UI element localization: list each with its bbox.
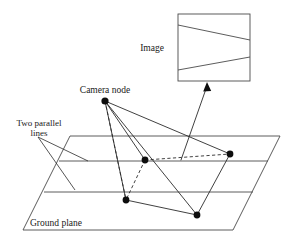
leader-line-parallel-lower (38, 137, 75, 190)
ground-point-low-left-dot (123, 197, 130, 204)
label-camera-node: Camera node (80, 85, 130, 95)
diagram-canvas: Image Camera node Two parallel lines Gro… (0, 0, 292, 243)
ground-point-mid-right-dot (227, 151, 234, 158)
label-two-parallel-lines-line1: Two parallel (16, 118, 62, 128)
image-plane-rect (178, 14, 250, 81)
ground-point-mid-left-dot (142, 157, 149, 164)
label-two-parallel-lines-line2: lines (31, 128, 48, 138)
edge-low-right-to-mid-right (197, 154, 230, 215)
leader-line-parallel-upper (38, 137, 88, 161)
ray-to-low-right (105, 101, 197, 215)
ground-point-low-right-dot (194, 212, 201, 219)
dashed-mid-left-to-low-left (126, 160, 145, 200)
ground-plane-polygon (23, 136, 280, 230)
label-image: Image (140, 43, 164, 53)
dashed-mid-left-to-mid-right (145, 154, 230, 160)
projection-arrow-head (203, 82, 211, 91)
projection-arrow-shaft (181, 86, 207, 160)
figure-root: Image Camera node Two parallel lines Gro… (0, 0, 292, 243)
ray-to-mid-right (105, 101, 230, 154)
camera-node-dot (101, 97, 108, 104)
label-ground-plane: Ground plane (30, 218, 82, 228)
